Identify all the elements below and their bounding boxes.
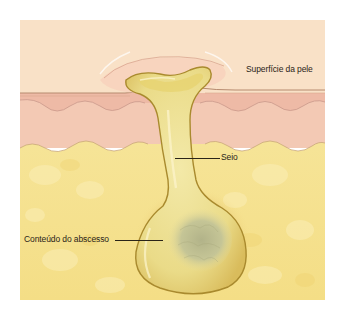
leader-line-sinus xyxy=(175,158,220,159)
label-abscess-contents: Conteúdo do abscesso xyxy=(24,234,109,244)
illustration-canvas xyxy=(0,0,342,331)
label-sinus: Seio xyxy=(221,152,238,162)
leader-line-abscess-contents xyxy=(115,240,163,241)
pus-core xyxy=(164,208,232,272)
abscess-sinus-illustration: Superfície da pele Seio Conteúdo do absc… xyxy=(0,0,342,331)
label-skin-surface: Superfície da pele xyxy=(246,64,313,74)
